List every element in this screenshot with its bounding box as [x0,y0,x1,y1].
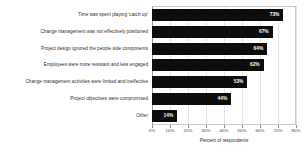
bar-track: 53% [152,76,296,88]
bar-track: 64% [152,43,296,55]
chart-row: Change management activities were limite… [0,76,308,88]
bar[interactable]: 67% [152,26,273,38]
category-label: Change management was not effectively po… [0,29,152,35]
plot-wrapper: Time was spent playing 'catch up'73%Chan… [0,0,308,155]
bar-value-label: 64% [254,46,264,52]
chart-row: Project objectives were compromised44% [0,93,308,105]
bar-value-label: 62% [250,62,260,68]
x-axis-tick-label: 60% [256,128,265,134]
chart-row: Change management was not effectively po… [0,26,308,38]
x-axis-tick-label: 80% [292,128,301,134]
bar-track: 14% [152,110,296,122]
category-label: Other [0,113,152,119]
category-label: Change management activities were limite… [0,79,152,85]
bar-value-label: 73% [270,12,280,18]
bar[interactable]: 44% [152,93,231,105]
bar[interactable]: 14% [152,110,177,122]
x-axis-tick-label: 30% [202,128,211,134]
bar[interactable]: 73% [152,9,283,21]
bar-track: 73% [152,9,296,21]
bar[interactable]: 64% [152,43,267,55]
chart-rows: Time was spent playing 'catch up'73%Chan… [0,9,308,122]
bar-value-label: 53% [234,79,244,85]
x-axis-tick-label: 10% [166,128,175,134]
x-axis-tick-label: 70% [274,128,283,134]
x-axis-tick-label: 50% [238,128,247,134]
x-axis-tick-label: 0% [149,128,155,134]
category-label: Project design ignored the people side c… [0,46,152,52]
bar-value-label: 14% [164,113,174,119]
category-label: Employees were more resistant and less e… [0,62,152,68]
bar[interactable]: 62% [152,59,264,71]
bar-chart: Time was spent playing 'catch up'73%Chan… [0,0,308,155]
bar[interactable]: 53% [152,76,247,88]
category-label: Time was spent playing 'catch up' [0,12,152,18]
chart-row: Time was spent playing 'catch up'73% [0,9,308,21]
bar-track: 67% [152,26,296,38]
x-axis-title: Percent of respondents [152,137,296,144]
category-label: Project objectives were compromised [0,96,152,102]
bar-track: 44% [152,93,296,105]
bar-value-label: 67% [259,29,269,35]
bar-track: 62% [152,59,296,71]
chart-row: Project design ignored the people side c… [0,43,308,55]
x-axis-tick-label: 40% [220,128,229,134]
chart-row: Employees were more resistant and less e… [0,59,308,71]
x-axis-tick-label: 20% [184,128,193,134]
chart-row: Other14% [0,110,308,122]
bar-value-label: 44% [218,96,228,102]
x-axis-tick-labels: 0%10%20%30%40%50%60%70%80% [152,128,296,136]
